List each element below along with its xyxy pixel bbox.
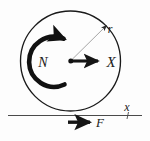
force-label: F: [95, 115, 105, 130]
radius-label: r: [108, 22, 113, 36]
axis-label: x: [123, 100, 130, 114]
physics-diagram-figure: r N X F x: [0, 0, 150, 141]
displacement-label: X: [105, 54, 116, 70]
center-point-dot: [68, 59, 73, 64]
radius-line: [71, 26, 107, 61]
moment-label: N: [37, 55, 48, 70]
diagram-canvas: r N X F x: [0, 0, 150, 141]
